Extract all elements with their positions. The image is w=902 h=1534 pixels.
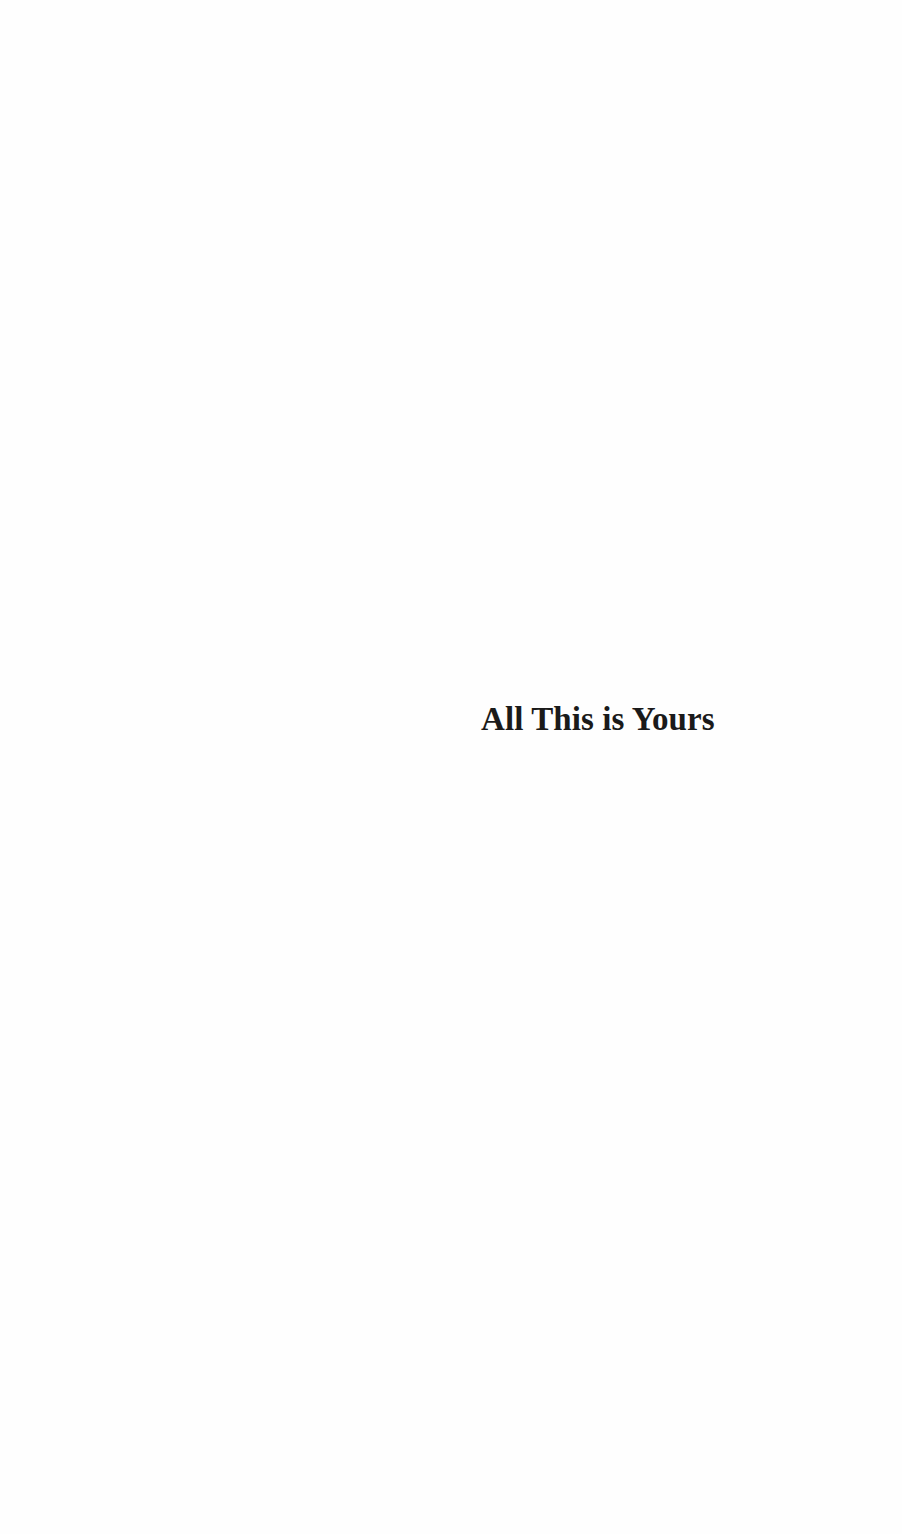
- half-title: All This is Yours: [481, 697, 715, 741]
- book-page: All This is Yours: [0, 0, 902, 1534]
